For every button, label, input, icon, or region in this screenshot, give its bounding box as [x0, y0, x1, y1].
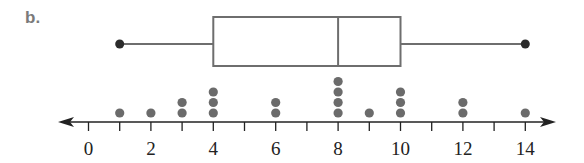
- dot-plot: [115, 77, 530, 118]
- data-dot: [209, 87, 218, 96]
- data-dot: [209, 108, 218, 117]
- data-dot: [458, 108, 467, 117]
- data-dot: [115, 108, 124, 117]
- tick-label: 12: [453, 138, 472, 159]
- data-dot: [458, 98, 467, 107]
- data-dot: [396, 98, 405, 107]
- data-dot: [334, 108, 343, 117]
- min-point: [115, 40, 124, 49]
- data-dot: [396, 87, 405, 96]
- data-dot: [178, 98, 187, 107]
- data-dot: [209, 98, 218, 107]
- tick-label: 4: [209, 138, 219, 159]
- iqr-box: [213, 17, 400, 66]
- data-dot: [271, 108, 280, 117]
- data-dot: [521, 108, 530, 117]
- number-line: 02468101214: [58, 117, 556, 159]
- max-point: [521, 40, 530, 49]
- data-dot: [334, 87, 343, 96]
- data-dot: [178, 108, 187, 117]
- data-dot: [334, 77, 343, 86]
- tick-label: 10: [391, 138, 410, 159]
- tick-label: 14: [516, 138, 536, 159]
- data-dot: [146, 108, 155, 117]
- data-dot: [271, 98, 280, 107]
- data-dot: [365, 108, 374, 117]
- tick-label: 2: [146, 138, 156, 159]
- tick-label: 8: [333, 138, 343, 159]
- box-plot: [115, 17, 530, 66]
- tick-label: 6: [271, 138, 281, 159]
- box-dot-plot: 02468101214: [0, 0, 584, 163]
- tick-label: 0: [84, 138, 94, 159]
- data-dot: [396, 108, 405, 117]
- data-dot: [334, 98, 343, 107]
